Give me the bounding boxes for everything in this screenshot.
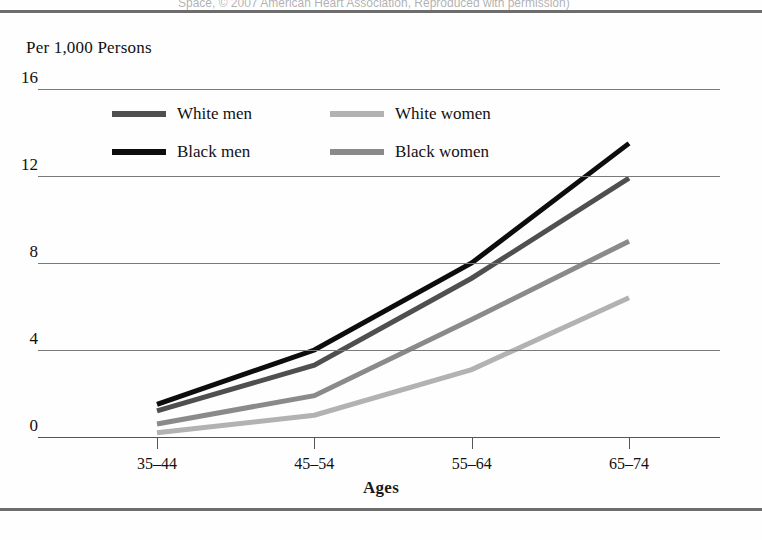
legend-item: White men <box>112 104 252 124</box>
gridline <box>38 350 720 351</box>
x-axis-tick-label: 35–44 <box>137 455 177 473</box>
y-axis-tick-label: 12 <box>12 155 38 175</box>
legend-swatch-icon <box>112 149 166 155</box>
legend-swatch-icon <box>330 111 384 117</box>
y-axis-tick-label: 8 <box>12 242 38 262</box>
gridline <box>38 176 720 177</box>
legend-item: Black men <box>112 142 250 162</box>
legend-swatch-icon <box>112 111 166 117</box>
legend-label: Black men <box>177 142 250 162</box>
x-axis-title: Ages <box>0 478 762 498</box>
x-axis-tick <box>157 438 158 449</box>
data-series-line <box>157 178 629 411</box>
gridline <box>38 263 720 264</box>
chart-legend: White menWhite womenBlack menBlack women <box>112 104 512 166</box>
x-axis-line <box>38 437 720 438</box>
x-axis-tick <box>314 438 315 449</box>
x-axis-tick-label: 65–74 <box>609 455 649 473</box>
legend-label: White men <box>177 104 252 124</box>
legend-label: White women <box>395 104 491 124</box>
x-axis-tick-label: 55–64 <box>452 455 492 473</box>
legend-label: Black women <box>395 142 489 162</box>
figure-panel: Space, © 2007 American Heart Association… <box>0 0 762 540</box>
y-axis-tick-label: 0 <box>12 416 38 436</box>
gridline <box>38 89 720 90</box>
x-axis-tick <box>472 438 473 449</box>
legend-swatch-icon <box>330 149 384 155</box>
y-axis-tick-label: 16 <box>12 68 38 88</box>
x-axis-tick <box>629 438 630 449</box>
legend-item: Black women <box>330 142 489 162</box>
y-axis-tick-label: 4 <box>12 329 38 349</box>
legend-item: White women <box>330 104 491 124</box>
x-axis-tick-label: 45–54 <box>294 455 334 473</box>
